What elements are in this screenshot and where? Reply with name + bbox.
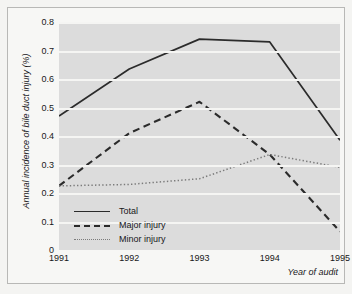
legend-item-major-injury: Major injury <box>74 218 166 232</box>
x-tick-label: 1994 <box>250 254 290 263</box>
x-axis-title: Year of audit <box>287 267 338 277</box>
legend-item-minor-injury: Minor injury <box>74 232 166 246</box>
legend-swatch-dashed-line-icon <box>74 221 110 230</box>
legend-label-total: Total <box>119 206 138 216</box>
chart-legend: Total Major injury Minor injury <box>74 204 166 246</box>
legend-swatch-solid-line-icon <box>74 207 110 216</box>
figure-frame: 00.10.20.30.40.50.60.70.8 19911992199319… <box>7 7 345 284</box>
legend-item-total: Total <box>74 204 166 218</box>
legend-label-major-injury: Major injury <box>119 220 166 230</box>
x-tick-label: 1993 <box>180 254 220 263</box>
legend-swatch-dotted-line-icon <box>74 235 110 244</box>
y-axis-title: Annual incidence of bile duct injury (%) <box>21 21 31 241</box>
x-tick-label: 1992 <box>109 254 149 263</box>
x-tick-label: 1995 <box>320 254 352 263</box>
y-axis-ticks: 00.10.20.30.40.50.60.70.8 <box>8 8 346 285</box>
legend-label-minor-injury: Minor injury <box>119 234 166 244</box>
x-tick-label: 1991 <box>39 254 79 263</box>
